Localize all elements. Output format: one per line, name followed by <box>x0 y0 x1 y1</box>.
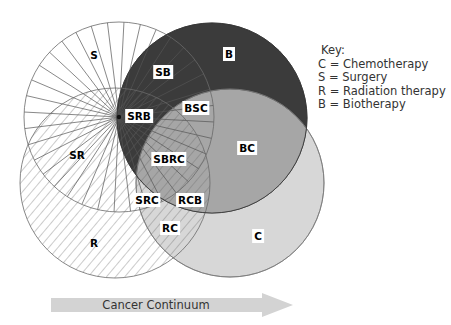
cancer-continuum-label: Cancer Continuum <box>66 298 246 312</box>
region-label-src: SRC <box>133 193 160 207</box>
region-label-sr: SR <box>67 148 87 162</box>
region-label-b: B <box>223 47 235 61</box>
legend-title: Key: <box>318 44 446 58</box>
legend-item-surgery: S = Surgery <box>318 71 446 85</box>
region-label-c: C <box>252 229 264 243</box>
region-label-rcb: RCB <box>176 193 204 207</box>
legend-item-biotherapy: B = Biotherapy <box>318 98 446 112</box>
region-label-r: R <box>88 236 100 250</box>
region-label-sb: SB <box>153 65 173 79</box>
surgery-ray-origin <box>117 115 121 119</box>
region-label-bc: BC <box>237 141 257 155</box>
region-label-sbrc: SBRC <box>151 152 186 166</box>
legend-item-chemotherapy: C = Chemotherapy <box>318 58 446 72</box>
legend: Key: C = Chemotherapy S = Surgery R = Ra… <box>318 44 446 112</box>
legend-item-radiation: R = Radiation therapy <box>318 85 446 99</box>
region-label-rc: RC <box>160 221 180 235</box>
region-label-s: S <box>88 48 100 62</box>
region-label-bsc: BSC <box>182 101 209 115</box>
region-label-srb: SRB <box>125 109 153 123</box>
